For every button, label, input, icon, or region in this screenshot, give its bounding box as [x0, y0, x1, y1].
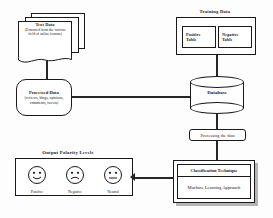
document-wave-icon [18, 57, 72, 65]
processed-data-title: Processed Data [29, 90, 59, 95]
connector-classification-to-output [133, 177, 173, 179]
connector-processed-to-database [72, 96, 190, 98]
document-sheet-front [18, 21, 72, 59]
positive-table-box: Positive Table [182, 26, 216, 48]
text-data-node: Text Data (Extracted from the various fi… [18, 13, 86, 61]
diagram-canvas: Text Data (Extracted from the various fi… [0, 0, 273, 218]
polarity-item-negative: Negative [58, 165, 92, 194]
training-data-label: Training Data [186, 9, 244, 14]
processed-data-subtitle: (reviews, blogs, opinions, comments, twe… [17, 96, 71, 105]
polarity-caption-negative: Negative [58, 190, 92, 194]
processed-data-node: Processed Data (reviews, blogs, opinions… [16, 79, 72, 116]
polarity-caption-positive: Positive [20, 190, 54, 194]
smiley-positive-icon [27, 165, 47, 185]
classification-title: Classification Technique [178, 165, 250, 177]
polarity-caption-neutral: Neutral [96, 190, 130, 194]
negative-table-box: Negative Table [218, 26, 252, 48]
output-polarity-levels-label: Output Polarity Levels [26, 150, 110, 155]
cylinder-top [190, 76, 244, 88]
smiley-neutral-icon [103, 165, 123, 185]
negative-table-line2: Table [222, 37, 251, 43]
connector-training-to-database [216, 55, 218, 76]
arrow-head-to-output-icon [130, 173, 135, 181]
training-data-box: Positive Table Negative Table [176, 17, 256, 55]
classification-body: Machine Learning Approach [178, 177, 250, 199]
processing-the-data-node: Processing the data [189, 129, 246, 141]
database-label: Database [190, 90, 244, 95]
connector-text-to-processed [46, 61, 48, 79]
output-polarity-levels-box: Positive Negative Neutral [15, 158, 133, 196]
database-node: Database [190, 76, 244, 114]
classification-inner-frame: Classification Technique Machine Learnin… [177, 164, 251, 199]
positive-table-line2: Table [186, 37, 215, 43]
classification-technique-node: Classification Technique Machine Learnin… [173, 160, 255, 203]
connector-processing-to-classification [216, 141, 218, 160]
polarity-item-neutral: Neutral [96, 165, 130, 194]
polarity-item-positive: Positive [20, 165, 54, 194]
smiley-negative-icon [65, 165, 85, 185]
connector-database-to-processing [216, 113, 218, 129]
